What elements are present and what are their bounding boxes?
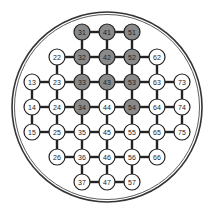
hole-label: 62 — [153, 54, 161, 61]
hole-62-empty[interactable]: 62 — [149, 49, 165, 65]
hole-label: 56 — [128, 154, 136, 161]
hole-label: 37 — [78, 179, 86, 186]
hole-41-peg[interactable]: 41 — [99, 24, 115, 40]
solitaire-board: 3141512232425262132333435363731424344454… — [0, 0, 213, 213]
hole-label: 44 — [103, 104, 111, 111]
hole-54-peg[interactable]: 54 — [124, 99, 140, 115]
hole-label: 32 — [78, 54, 86, 61]
hole-53-peg[interactable]: 53 — [124, 74, 140, 90]
hole-45-empty[interactable]: 45 — [99, 124, 115, 140]
hole-label: 47 — [103, 179, 111, 186]
hole-label: 35 — [78, 129, 86, 136]
hole-52-peg[interactable]: 52 — [124, 49, 140, 65]
hole-label: 36 — [78, 154, 86, 161]
hole-label: 52 — [128, 54, 136, 61]
hole-label: 24 — [53, 104, 61, 111]
hole-label: 74 — [178, 104, 186, 111]
hole-75-empty[interactable]: 75 — [174, 124, 190, 140]
hole-label: 46 — [103, 154, 111, 161]
hole-label: 25 — [53, 129, 61, 136]
hole-label: 66 — [153, 154, 161, 161]
hole-36-empty[interactable]: 36 — [74, 149, 90, 165]
hole-64-empty[interactable]: 64 — [149, 99, 165, 115]
hole-label: 55 — [128, 129, 136, 136]
board-holes: 3141512232425262132333435363731424344454… — [24, 24, 190, 190]
hole-label: 42 — [103, 54, 111, 61]
hole-label: 34 — [78, 104, 86, 111]
hole-56-empty[interactable]: 56 — [124, 149, 140, 165]
hole-23-empty[interactable]: 23 — [49, 74, 65, 90]
hole-label: 31 — [78, 29, 86, 36]
hole-label: 13 — [28, 79, 36, 86]
hole-label: 43 — [103, 79, 111, 86]
hole-65-empty[interactable]: 65 — [149, 124, 165, 140]
hole-15-empty[interactable]: 15 — [24, 124, 40, 140]
hole-74-empty[interactable]: 74 — [174, 99, 190, 115]
hole-73-empty[interactable]: 73 — [174, 74, 190, 90]
hole-42-peg[interactable]: 42 — [99, 49, 115, 65]
hole-25-empty[interactable]: 25 — [49, 124, 65, 140]
hole-33-peg[interactable]: 33 — [74, 74, 90, 90]
hole-43-peg[interactable]: 43 — [99, 74, 115, 90]
hole-35-empty[interactable]: 35 — [74, 124, 90, 140]
hole-label: 15 — [28, 129, 36, 136]
hole-44-empty[interactable]: 44 — [99, 99, 115, 115]
hole-32-peg[interactable]: 32 — [74, 49, 90, 65]
hole-label: 73 — [178, 79, 186, 86]
hole-51-peg[interactable]: 51 — [124, 24, 140, 40]
hole-label: 41 — [103, 29, 111, 36]
hole-label: 63 — [153, 79, 161, 86]
hole-13-empty[interactable]: 13 — [24, 74, 40, 90]
hole-55-empty[interactable]: 55 — [124, 124, 140, 140]
hole-26-empty[interactable]: 26 — [49, 149, 65, 165]
hole-63-empty[interactable]: 63 — [149, 74, 165, 90]
hole-label: 22 — [53, 54, 61, 61]
hole-label: 45 — [103, 129, 111, 136]
hole-22-empty[interactable]: 22 — [49, 49, 65, 65]
hole-label: 26 — [53, 154, 61, 161]
hole-label: 65 — [153, 129, 161, 136]
hole-31-peg[interactable]: 31 — [74, 24, 90, 40]
hole-label: 14 — [28, 104, 36, 111]
hole-label: 23 — [53, 79, 61, 86]
hole-label: 57 — [128, 179, 136, 186]
hole-66-empty[interactable]: 66 — [149, 149, 165, 165]
hole-24-empty[interactable]: 24 — [49, 99, 65, 115]
hole-34-peg[interactable]: 34 — [74, 99, 90, 115]
hole-46-empty[interactable]: 46 — [99, 149, 115, 165]
hole-label: 75 — [178, 129, 186, 136]
hole-57-empty[interactable]: 57 — [124, 174, 140, 190]
hole-label: 33 — [78, 79, 86, 86]
hole-label: 51 — [128, 29, 136, 36]
hole-37-empty[interactable]: 37 — [74, 174, 90, 190]
hole-label: 54 — [128, 104, 136, 111]
hole-label: 64 — [153, 104, 161, 111]
hole-14-empty[interactable]: 14 — [24, 99, 40, 115]
hole-47-empty[interactable]: 47 — [99, 174, 115, 190]
hole-label: 53 — [128, 79, 136, 86]
